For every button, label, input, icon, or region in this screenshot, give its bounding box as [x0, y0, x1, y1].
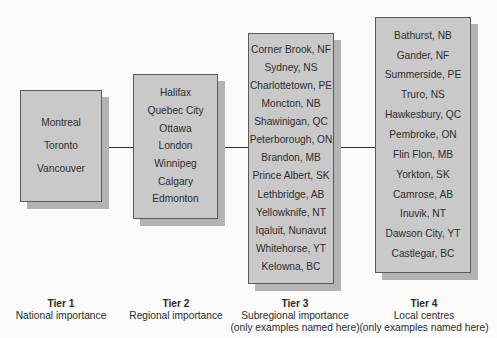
city: Iqaluit, Nunavut: [256, 226, 327, 236]
tier-1-description: National importance: [16, 310, 107, 322]
tier-3-label: Tier 3 Subregional importance (only exam…: [230, 298, 359, 334]
city: London: [159, 141, 193, 151]
city: Montreal: [41, 118, 81, 128]
tier-4-name: Tier 4: [359, 298, 488, 310]
city: Yellowknife, NT: [256, 208, 326, 218]
city: Calgary: [158, 177, 193, 187]
city: Corner Brook, NF: [251, 45, 331, 55]
city: Prince Albert, SK: [252, 171, 329, 181]
tier-4-note: (only examples named here): [359, 322, 488, 334]
city: Pembroke, ON: [389, 130, 456, 140]
city: Peterborough, ON: [250, 135, 333, 145]
city: Shawinigan, QC: [254, 117, 328, 127]
city: Sydney, NS: [264, 63, 317, 73]
city: Castlegar, BC: [392, 249, 455, 259]
city: Truro, NS: [401, 90, 445, 100]
tier-2-description: Regional importance: [129, 310, 222, 322]
city: Edmonton: [152, 194, 198, 204]
tier-3-box: Corner Brook, NF Sydney, NS Charlottetow…: [248, 33, 334, 284]
city: Quebec City: [147, 106, 203, 116]
city: Charlottetown, PE: [250, 81, 332, 91]
tier-3-name: Tier 3: [230, 298, 359, 310]
city: Moncton, NB: [262, 99, 321, 109]
tier-4-label: Tier 4 Local centres (only examples name…: [359, 298, 488, 334]
tier-1-city-list: Montreal Toronto Vancouver: [20, 90, 102, 202]
tier-2-city-list: Halifax Quebec City Ottawa London Winnip…: [133, 74, 218, 219]
city: Halifax: [160, 88, 191, 98]
city: Toronto: [44, 141, 78, 151]
city: Camrose, AB: [393, 190, 453, 200]
tier-4-description: Local centres: [359, 310, 488, 322]
city: Winnipeg: [154, 159, 196, 169]
tier-1-box: Montreal Toronto Vancouver: [20, 90, 102, 202]
tier-4-box: Bathurst, NB Gander, NF Summerside, PE T…: [375, 17, 471, 273]
city: Summerside, PE: [385, 70, 461, 80]
city: Ottawa: [159, 124, 191, 134]
tier-2-label: Tier 2 Regional importance: [129, 298, 222, 322]
city: Lethbridge, AB: [258, 190, 325, 200]
tier-3-note: (only examples named here): [230, 322, 359, 334]
city: Flin Flon, MB: [393, 150, 453, 160]
city: Yorkton, SK: [396, 170, 449, 180]
tier-2-name: Tier 2: [129, 298, 222, 310]
city: Kelowna, BC: [262, 262, 321, 272]
city: Inuvik, NT: [400, 209, 446, 219]
city: Brandon, MB: [261, 153, 320, 163]
city: Dawson City, YT: [386, 229, 461, 239]
city: Vancouver: [37, 164, 85, 174]
city: Gander, NF: [397, 51, 450, 61]
tier-4-city-list: Bathurst, NB Gander, NF Summerside, PE T…: [375, 17, 471, 273]
city: Whitehorse, YT: [256, 244, 326, 254]
tier-3-description: Subregional importance: [230, 310, 359, 322]
city: Hawkesbury, QC: [385, 110, 461, 120]
city: Bathurst, NB: [394, 31, 452, 41]
tier-3-city-list: Corner Brook, NF Sydney, NS Charlottetow…: [248, 33, 334, 284]
tier-2-box: Halifax Quebec City Ottawa London Winnip…: [133, 74, 218, 219]
tier-1-label: Tier 1 National importance: [16, 298, 107, 322]
tier-1-name: Tier 1: [16, 298, 107, 310]
